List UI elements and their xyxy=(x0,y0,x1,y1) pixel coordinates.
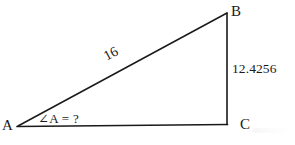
vertex-label-a: A xyxy=(2,118,13,133)
triangle-figure: B A C 12.4256 16 ∠A = ? xyxy=(0,0,295,145)
vertex-label-b: B xyxy=(231,4,241,19)
side-hypotenuse-ab xyxy=(18,13,227,126)
angle-a-unknown-label: ∠A = ? xyxy=(38,112,79,125)
vertex-label-c: C xyxy=(240,117,250,132)
side-length-label-bc: 12.4256 xyxy=(232,62,277,76)
